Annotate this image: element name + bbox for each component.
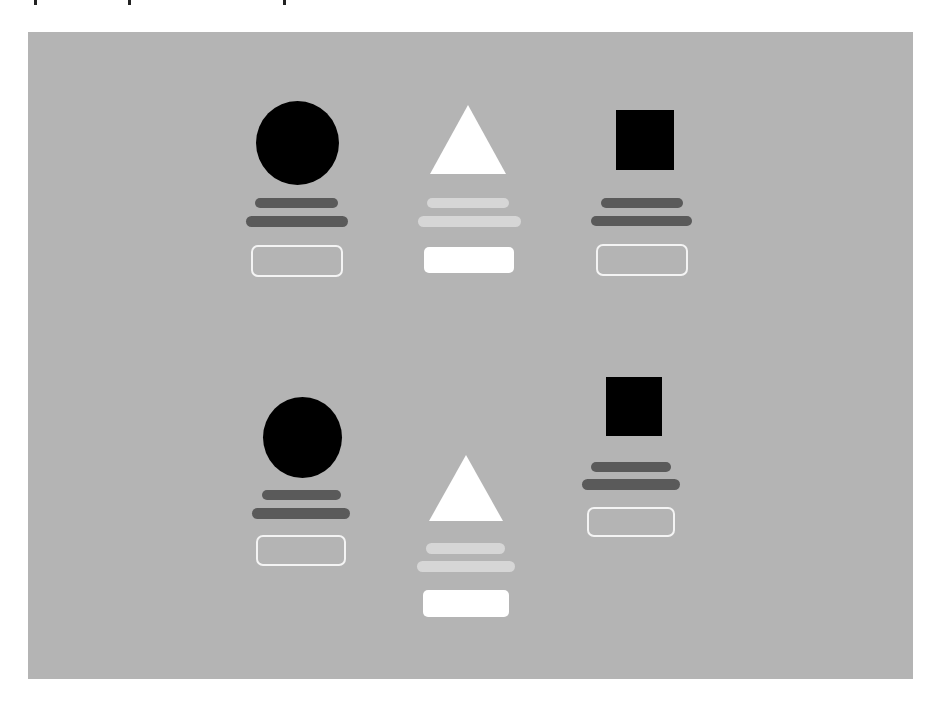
triangle-icon <box>429 455 503 521</box>
square-icon <box>606 377 662 436</box>
cropped-text-descenders <box>0 0 932 6</box>
filled-button[interactable] <box>423 590 509 617</box>
text-placeholder-line-2 <box>252 508 350 519</box>
outline-button[interactable] <box>587 507 675 537</box>
text-placeholder-line-1 <box>591 462 671 472</box>
square-icon <box>616 110 674 170</box>
circle-icon <box>256 101 339 185</box>
filled-button[interactable] <box>424 247 514 273</box>
text-placeholder-line-2 <box>582 479 680 490</box>
circle-icon <box>263 397 342 478</box>
text-placeholder-line-1 <box>601 198 683 208</box>
text-placeholder-line-2 <box>246 216 348 227</box>
text-placeholder-line-2 <box>591 216 692 226</box>
text-placeholder-line-2 <box>417 561 515 572</box>
text-placeholder-line-2 <box>418 216 521 227</box>
outline-button[interactable] <box>596 244 688 276</box>
text-placeholder-line-1 <box>255 198 338 208</box>
outline-button[interactable] <box>256 535 346 566</box>
triangle-icon <box>430 105 506 174</box>
text-placeholder-line-1 <box>427 198 509 208</box>
text-placeholder-line-1 <box>426 543 505 554</box>
text-placeholder-line-1 <box>262 490 341 500</box>
outline-button[interactable] <box>251 245 343 277</box>
